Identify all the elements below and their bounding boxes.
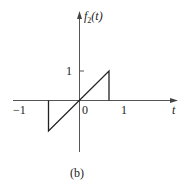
x-axis-label: t [172,103,176,117]
x-tick-label-0: 0 [82,103,88,117]
x-tick-label-1: 1 [121,103,127,117]
x-tick-label-neg1: −1 [13,103,26,117]
y-axis-label: f2(t) [84,9,103,25]
figure-caption: (b) [70,166,84,180]
y-axis-arrow-icon [77,11,82,19]
signal-plot: f2(t) 1 −1 0 1 t (b) [0,0,191,191]
y-tick-label: 1 [66,64,72,78]
